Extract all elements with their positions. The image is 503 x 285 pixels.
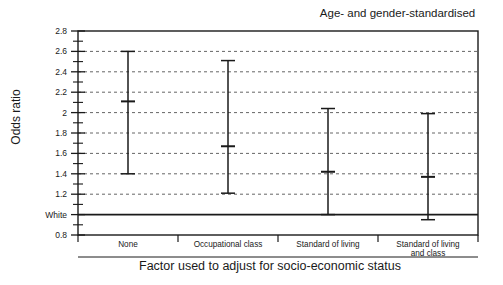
plot-area: 0.8White1.21.41.61.822.22.42.62.8 NoneOc… xyxy=(0,0,503,285)
y-tick-label: 0.8 xyxy=(55,230,67,240)
x-axis-category-labels: NoneOccupational classStandard of living… xyxy=(118,240,460,258)
x-category-label: Standard of living xyxy=(396,240,460,249)
y-tick-label: 1.8 xyxy=(55,128,67,138)
y-tick-label: 1.4 xyxy=(55,169,67,179)
y-tick-label: 2.2 xyxy=(55,87,67,97)
error-bar xyxy=(421,114,435,220)
y-tick-label: 2 xyxy=(62,108,67,118)
y-tick-label: White xyxy=(45,210,67,220)
error-bar xyxy=(221,61,235,194)
chart-figure: Age- and gender-standardised Odds ratio … xyxy=(0,0,503,285)
y-axis-tick-labels: 0.8White1.21.41.61.822.22.42.62.8 xyxy=(45,26,67,240)
y-tick-label: 1.2 xyxy=(55,189,67,199)
y-tick-label: 2.4 xyxy=(55,67,67,77)
gridlines xyxy=(78,51,478,194)
y-tick-label: 2.6 xyxy=(55,46,67,56)
error-bar xyxy=(321,109,335,215)
x-category-label: Standard of living xyxy=(296,240,360,249)
y-tick-label: 2.8 xyxy=(55,26,67,36)
x-category-label: and class xyxy=(411,249,446,258)
x-category-label: Occupational class xyxy=(194,240,263,249)
x-category-label: None xyxy=(118,240,138,249)
y-tick-label: 1.6 xyxy=(55,148,67,158)
